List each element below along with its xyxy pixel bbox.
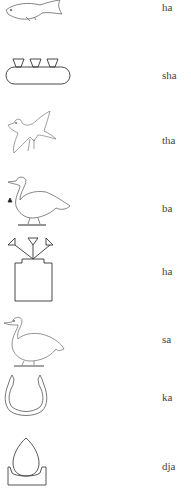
duck-icon — [0, 313, 70, 367]
transliteration-label: dja — [162, 460, 175, 472]
goose-icon — [0, 176, 72, 230]
transliteration-label: ha — [162, 265, 172, 277]
transliteration-label: tha — [162, 134, 175, 146]
fish-icon — [0, 0, 66, 24]
flying-bird-icon — [0, 111, 60, 161]
transliteration-label: sha — [162, 69, 177, 81]
tree-enclosure-icon — [0, 237, 60, 309]
transliteration-label: ha — [162, 1, 172, 13]
transliteration-label: ba — [162, 202, 172, 214]
transliteration-label: ka — [162, 391, 172, 403]
transliteration-label: sa — [162, 333, 171, 345]
drop-on-stand-icon — [0, 437, 50, 487]
raised-arms-icon — [0, 375, 50, 417]
basket-icon — [0, 55, 72, 87]
